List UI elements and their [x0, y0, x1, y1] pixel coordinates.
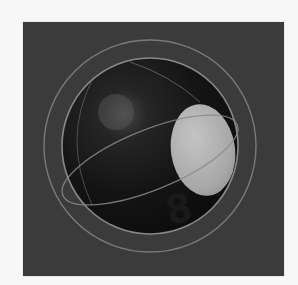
- eight-ball-icon: 8: [0, 0, 298, 285]
- ball-highlight: [98, 94, 134, 130]
